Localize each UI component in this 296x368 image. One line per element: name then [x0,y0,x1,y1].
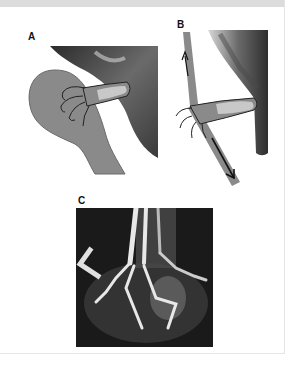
page-border-bottom [0,353,285,354]
top-strip [0,0,284,7]
panel-b-illustration [170,28,275,188]
panel-a-illustration [25,40,165,180]
panel-c-radiograph [76,208,213,347]
page-border-right [284,0,285,354]
panel-label-c: C [78,195,85,206]
